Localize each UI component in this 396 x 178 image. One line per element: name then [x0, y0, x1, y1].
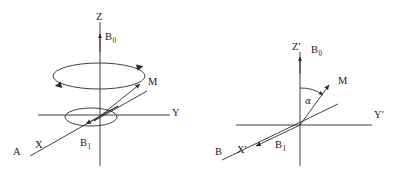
precession-ellipse: [53, 63, 145, 89]
y-prime-axis-label: Y': [374, 110, 384, 121]
b1-vector-label-prime: B1: [275, 140, 286, 151]
alpha-angle-label: α: [305, 97, 311, 106]
x-prime-axis-label: X': [237, 145, 247, 156]
b1-prime-label-subscript: 1: [283, 145, 287, 153]
b0-vector-label-prime: B0: [311, 45, 322, 56]
z-axis-label: Z: [96, 12, 103, 23]
m-vector-line-secondary: [94, 91, 147, 121]
figure-root: Z B0 M Y X B1 A Z' B0 M α Y' X' B1 B: [0, 0, 396, 178]
b0-vector-label: B0: [105, 32, 116, 43]
panel-a-group: [30, 22, 170, 166]
alpha-arc: [300, 88, 323, 95]
x-axis-label: X: [35, 140, 43, 151]
b1-label-text: B: [80, 137, 87, 148]
b0-label-text: B: [105, 31, 112, 42]
m-vector-label: M: [148, 77, 158, 88]
b0-prime-label-text: B: [311, 44, 318, 55]
b0-label-subscript: 0: [113, 37, 117, 45]
diagram-canvas: [0, 0, 396, 178]
m-vector-label-prime: M: [338, 76, 348, 87]
panel-b-label: B: [215, 147, 222, 158]
b1-vector-label: B1: [80, 138, 91, 149]
b1-prime-label-text: B: [275, 139, 282, 150]
b1-label-subscript: 1: [88, 143, 92, 151]
z-prime-axis-label: Z': [292, 42, 301, 53]
panel-a-label: A: [13, 147, 21, 158]
y-axis-label: Y: [172, 108, 180, 119]
b0-prime-label-subscript: 0: [319, 50, 323, 58]
